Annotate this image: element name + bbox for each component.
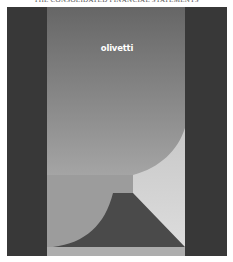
cover-illustration (0, 0, 233, 262)
base-strip (47, 247, 185, 256)
dark-band-right (185, 7, 227, 256)
olivetti-logo: olivetti (96, 43, 138, 53)
dark-band-left (7, 7, 47, 256)
